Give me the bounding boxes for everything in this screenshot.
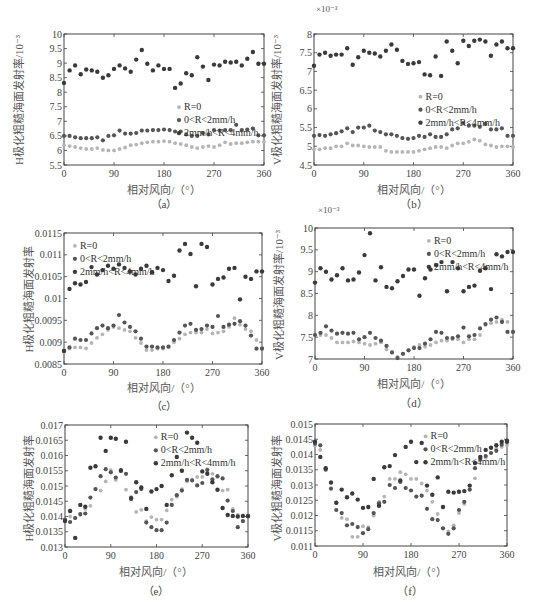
x-tick-label: 360: [506, 362, 521, 373]
data-point: [467, 44, 471, 48]
legend: R=00<R<2mm/h2mm/h<R<4mm/h: [177, 101, 259, 138]
data-point: [200, 469, 204, 473]
legend-marker: [73, 244, 77, 248]
data-point: [90, 136, 94, 140]
data-point: [324, 333, 328, 337]
data-point: [456, 334, 460, 338]
data-point: [414, 460, 418, 464]
data-point: [236, 525, 240, 529]
data-point: [489, 54, 493, 58]
data-point: [366, 527, 370, 531]
data-point: [329, 132, 333, 136]
data-point: [111, 324, 115, 328]
data-point: [329, 487, 333, 491]
data-point: [156, 128, 160, 132]
data-point: [378, 145, 382, 149]
data-point: [170, 473, 174, 477]
data-point: [373, 336, 377, 340]
data-point: [190, 145, 194, 149]
x-axis-label: 相对风向/（°）: [364, 375, 464, 391]
legend-label: R=0: [431, 430, 448, 441]
data-point: [401, 150, 405, 154]
data-point: [151, 68, 155, 72]
data-point: [201, 64, 205, 68]
data-point: [423, 342, 427, 346]
data-point: [123, 132, 127, 136]
data-point: [420, 494, 424, 498]
y-tick-label: 0.016: [41, 450, 64, 461]
x-tick-label: 0: [62, 168, 67, 179]
data-point: [339, 52, 343, 56]
data-point: [73, 536, 77, 540]
data-point: [95, 326, 99, 330]
data-point: [350, 522, 354, 526]
data-point: [255, 338, 259, 342]
data-point: [356, 144, 360, 148]
data-point: [350, 535, 354, 539]
data-point: [249, 334, 253, 338]
data-point: [134, 510, 138, 514]
data-point: [461, 326, 465, 330]
data-point: [428, 73, 432, 77]
data-point: [114, 437, 118, 441]
data-point: [414, 477, 418, 481]
data-point: [478, 139, 482, 143]
data-point: [318, 147, 322, 151]
data-point: [68, 515, 72, 519]
data-point: [78, 503, 82, 507]
data-point: [183, 324, 187, 328]
data-point: [177, 331, 181, 335]
data-point: [199, 242, 203, 246]
y-tick-label: 6: [57, 145, 62, 156]
data-point: [212, 62, 216, 66]
y-tick-label: 7.5: [301, 332, 314, 343]
legend-marker: [418, 108, 422, 112]
data-point: [190, 478, 194, 482]
data-point: [511, 134, 515, 138]
data-point: [101, 148, 105, 152]
data-point: [468, 483, 472, 487]
data-point: [340, 144, 344, 148]
data-point: [362, 335, 366, 339]
data-point: [162, 127, 166, 131]
data-point: [472, 138, 476, 142]
data-point: [243, 275, 247, 279]
data-point: [423, 276, 427, 280]
data-point: [368, 231, 372, 235]
y-tick-label: 7: [308, 354, 313, 365]
data-point: [260, 269, 264, 273]
data-point: [238, 297, 242, 301]
data-point: [406, 150, 410, 154]
data-point: [420, 441, 424, 445]
series-0: [63, 467, 250, 523]
data-point: [251, 50, 255, 54]
data-point: [114, 475, 118, 479]
data-point: [425, 489, 429, 493]
data-point: [356, 525, 360, 529]
data-point: [106, 134, 110, 138]
chart-panel-d: ×10⁻³ 09018027036077.588.599.510R=00<R<2…: [268, 205, 536, 410]
data-point: [165, 503, 169, 507]
data-point: [134, 336, 138, 340]
data-point: [173, 129, 177, 133]
data-point: [345, 46, 349, 50]
y-tick-label: 7.5: [50, 101, 63, 112]
data-point: [411, 136, 415, 140]
data-point: [179, 142, 183, 146]
data-point: [361, 531, 365, 535]
data-point: [99, 474, 103, 478]
data-point: [73, 516, 77, 520]
series-1: [63, 467, 250, 532]
data-point: [134, 143, 138, 147]
data-point: [417, 294, 421, 298]
data-point: [200, 475, 204, 479]
data-point: [84, 136, 88, 140]
x-tick-label: 90: [360, 362, 370, 373]
data-point: [317, 52, 321, 56]
data-point: [404, 472, 408, 476]
legend-marker: [177, 118, 181, 122]
data-point: [423, 135, 427, 139]
data-point: [450, 127, 454, 131]
y-tick-label: 0.015: [291, 419, 314, 430]
data-point: [95, 70, 99, 74]
